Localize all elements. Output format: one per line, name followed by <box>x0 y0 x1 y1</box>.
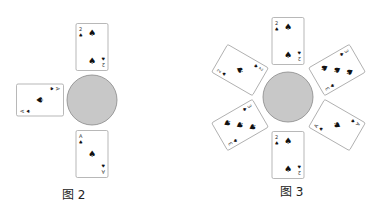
spade-pip-icon: ♠ <box>284 164 292 174</box>
card-corner-suit-icon: ♠ <box>297 164 301 170</box>
playing-card-top: 2♠2♠♠♠ <box>272 18 304 65</box>
diagram-canvas: 2♠2♠♠♠A♠A♠♠A♠A♠♠ 2♠2♠♠♠2♠2♠♠3♠3♠♠♠♠3♠3♠♠… <box>0 0 380 213</box>
playing-card-top: 2♠2♠♠♠ <box>76 24 108 71</box>
spade-pip-icon: ♠ <box>35 96 45 104</box>
card-corner-suit-icon: ♠ <box>101 163 105 169</box>
card-corner-suit-icon: ♠ <box>275 26 279 32</box>
card-corner-suit-icon: ♠ <box>101 56 105 62</box>
playing-card-lower-right: A♠A♠♠ <box>309 99 366 150</box>
spade-pip-icon: ♠ <box>88 149 96 159</box>
playing-card-bottom: 2♠2♠♠♠ <box>272 132 304 179</box>
spade-pip-icon: ♠ <box>284 22 292 32</box>
figure-2: 2♠2♠♠♠A♠A♠♠A♠A♠♠ <box>17 24 118 178</box>
table-circle <box>67 75 117 125</box>
card-corner-suit-icon: ♠ <box>79 32 83 38</box>
spade-pip-icon: ♠ <box>284 50 292 60</box>
card-corner-suit-icon: ♠ <box>297 50 301 56</box>
spade-pip-icon: ♠ <box>284 136 292 146</box>
card-corner-suit-icon: ♠ <box>25 109 31 113</box>
playing-card-lower-left: 3♠3♠♠♠♠ <box>212 99 269 150</box>
card-corner-suit-icon: ♠ <box>275 140 279 146</box>
spade-pip-icon: ♠ <box>88 28 96 38</box>
playing-card-upper-left: 2♠2♠♠ <box>212 44 269 95</box>
playing-card-bottom: A♠A♠♠ <box>76 131 108 178</box>
card-corner-suit-icon: ♠ <box>49 87 55 91</box>
playing-card-left: A♠A♠♠ <box>17 84 64 116</box>
playing-card-upper-right: 3♠3♠♠♠♠ <box>309 44 366 95</box>
card-corner-suit-icon: ♠ <box>79 139 83 145</box>
figure-2-caption: 图 2 <box>62 185 85 202</box>
table-circle <box>263 72 313 122</box>
figure-3-caption: 图 3 <box>280 182 303 199</box>
figure-3: 2♠2♠♠♠2♠2♠♠3♠3♠♠♠♠3♠3♠♠♠♠A♠A♠♠2♠2♠♠♠ <box>212 18 366 179</box>
spade-pip-icon: ♠ <box>88 56 96 66</box>
